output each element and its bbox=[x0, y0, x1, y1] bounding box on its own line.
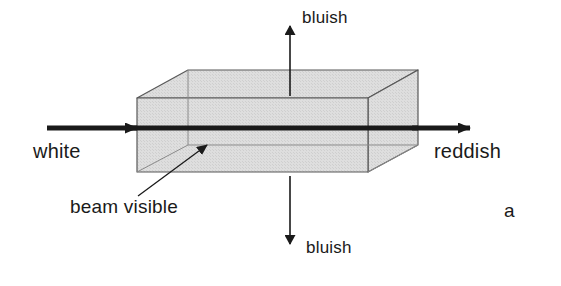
label-incident-beam: white bbox=[33, 140, 81, 163]
panel-label: a bbox=[504, 200, 515, 222]
label-scattered-up: bluish bbox=[302, 8, 348, 28]
label-transmitted-beam: reddish bbox=[434, 140, 501, 163]
scattering-medium-box bbox=[137, 70, 418, 172]
figure-panel: white reddish bluish bluish beam visible… bbox=[0, 0, 561, 286]
label-scattered-down: bluish bbox=[306, 238, 352, 258]
box-front-face bbox=[137, 98, 368, 172]
label-beam-visible: beam visible bbox=[70, 196, 178, 218]
